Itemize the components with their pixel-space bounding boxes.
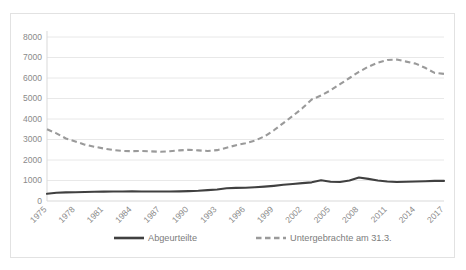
y-axis-tick-labels: 010002000300040005000600070008000 <box>23 32 42 206</box>
chart-container: 010002000300040005000600070008000 197519… <box>10 13 455 258</box>
y-axis-tick-label: 5000 <box>23 93 42 103</box>
x-axis-tick-label: 1975 <box>28 204 49 225</box>
x-axis-tick-label: 1999 <box>255 204 276 225</box>
data-series <box>47 60 444 194</box>
legend-label-0: Abgeurteilte <box>148 233 197 243</box>
x-axis-tick-label: 2011 <box>369 204 389 224</box>
y-axis-tick-label: 0 <box>37 196 42 206</box>
series-line-untergebrachte <box>47 60 444 152</box>
x-axis-tick-label: 2014 <box>397 204 418 225</box>
line-chart: 010002000300040005000600070008000 197519… <box>11 14 456 259</box>
legend-label-1: Untergebrachte am 31.3. <box>290 233 392 243</box>
y-axis-tick-label: 4000 <box>23 114 42 124</box>
chart-legend: AbgeurteilteUntergebrachte am 31.3. <box>114 233 392 243</box>
x-axis-tick-label: 2008 <box>340 204 361 225</box>
x-axis-tick-label: 1978 <box>56 204 77 225</box>
y-axis-tick-label: 2000 <box>23 155 42 165</box>
x-axis-tick-label: 2005 <box>312 204 333 225</box>
x-axis-tick-label: 1996 <box>226 204 247 225</box>
y-axis-tick-label: 1000 <box>23 175 42 185</box>
x-axis-tick-label: 1987 <box>141 204 162 225</box>
y-axis-tick-label: 8000 <box>23 32 42 42</box>
gridlines <box>47 31 444 201</box>
x-axis-tick-label: 2017 <box>425 204 446 225</box>
y-axis-tick-label: 7000 <box>23 52 42 62</box>
x-axis-tick-labels: 1975197819811984198719901993199619992002… <box>28 204 446 225</box>
x-axis-tick-label: 1993 <box>198 204 219 225</box>
y-axis-tick-label: 3000 <box>23 134 42 144</box>
x-axis-tick-label: 2002 <box>283 204 304 225</box>
series-line-abgeurteilte <box>47 177 444 193</box>
x-axis-tick-label: 1981 <box>85 204 106 225</box>
x-axis-tick-label: 1990 <box>170 204 191 225</box>
x-axis-tick-label: 1984 <box>113 204 134 225</box>
y-axis-tick-label: 6000 <box>23 73 42 83</box>
